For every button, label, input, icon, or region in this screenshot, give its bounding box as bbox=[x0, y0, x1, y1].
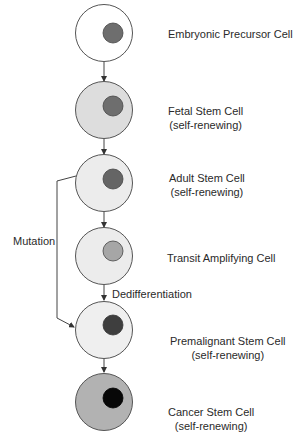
cell-embryonic bbox=[76, 5, 133, 62]
cell-fetal bbox=[76, 82, 133, 139]
label-adult: Adult Stem Cell (self-renewing) bbox=[169, 171, 245, 199]
nucleus bbox=[103, 96, 123, 116]
nucleus bbox=[103, 315, 123, 335]
cell-adult bbox=[76, 155, 133, 212]
mutation-arrow bbox=[57, 176, 76, 327]
cell-transit bbox=[76, 228, 133, 285]
nucleus bbox=[103, 169, 123, 189]
label-mutation: Mutation bbox=[13, 234, 55, 248]
label-fetal: Fetal Stem Cell (self-renewing) bbox=[168, 104, 243, 132]
nucleus bbox=[103, 23, 123, 43]
diagram-graphics bbox=[0, 0, 296, 442]
nucleus bbox=[103, 388, 123, 408]
cell-premalignant bbox=[76, 302, 133, 359]
label-transit: Transit Amplifying Cell bbox=[167, 251, 275, 265]
label-premalignant: Premalignant Stem Cell (self-renewing) bbox=[170, 334, 286, 362]
cell-cancer bbox=[76, 374, 133, 431]
nucleus bbox=[103, 241, 123, 261]
stem-cell-lineage-diagram: Embryonic Precursor Cell Fetal Stem Cell… bbox=[0, 0, 296, 442]
label-cancer: Cancer Stem Cell (self-renewing) bbox=[168, 405, 254, 433]
label-embryonic: Embryonic Precursor Cell bbox=[168, 27, 293, 41]
label-dedifferentiation: Dedifferentiation bbox=[112, 287, 192, 301]
